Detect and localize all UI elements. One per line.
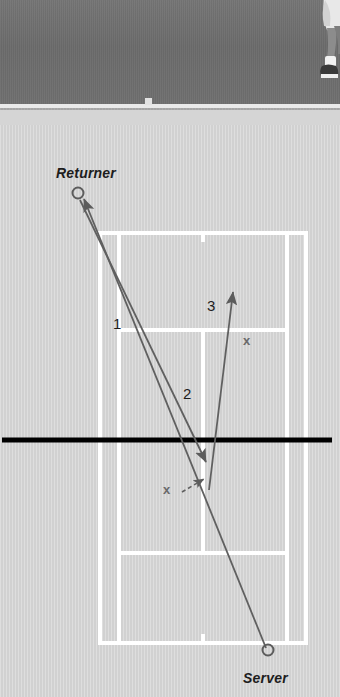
court-diagram-panel: Returner Server 1 2 3 x x (0, 125, 340, 697)
photograph-panel (0, 0, 340, 110)
photo-center-mark (145, 98, 152, 105)
photo-court-surface (0, 0, 340, 104)
server-position-marker (263, 645, 274, 656)
figure-root: Returner Server 1 2 3 x x (0, 0, 340, 697)
trajectory-shot-3-reply (209, 292, 233, 490)
photo-apron (0, 108, 340, 110)
court-diagram-svg (0, 125, 340, 697)
returner-position-marker (73, 188, 84, 199)
photo-player-figure (294, 0, 340, 92)
